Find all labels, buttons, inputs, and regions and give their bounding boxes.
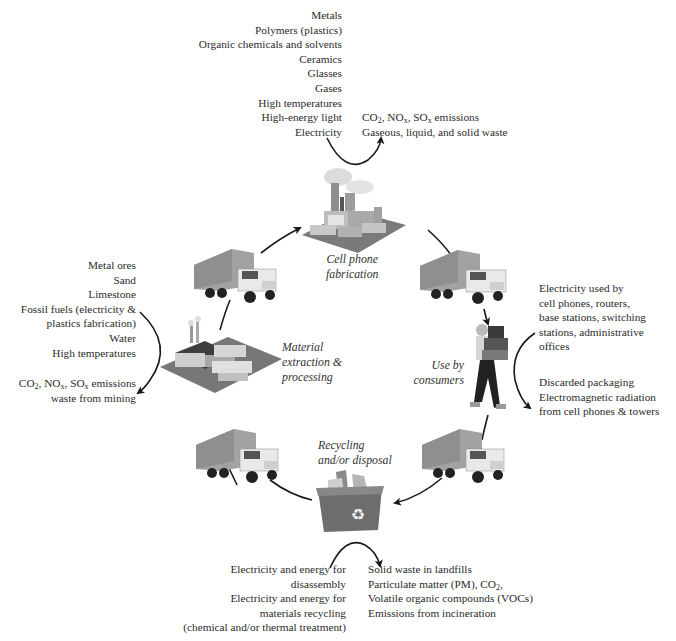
recycling-pm-co2-line: Particulate matter (PM), CO2, xyxy=(368,577,533,592)
truck-icon-extraction-to-fabrication xyxy=(192,245,282,307)
recycling-bin-icon: ♻ xyxy=(312,470,388,534)
extraction-io-arrow xyxy=(138,312,160,393)
fabrication-inputs-list: Metals Polymers (plastics) Organic chemi… xyxy=(150,8,342,139)
stage-label-recycling: Recycling and/or disposal xyxy=(318,438,392,468)
extraction-outputs-list: CO2, NOx, SOx emissions waste from minin… xyxy=(0,376,136,405)
svg-text:♻: ♻ xyxy=(351,505,365,524)
extraction-emissions-line: CO2, NOx, SOx emissions xyxy=(0,376,136,391)
processing-plant-icon xyxy=(160,315,285,395)
stage-label-fabrication: Cell phone fabrication xyxy=(326,252,378,282)
truck-icon-fabrication-to-consumer xyxy=(418,246,513,308)
recycling-inputs-list: Electricity and energy for disassembly E… xyxy=(150,562,346,635)
person-carrying-boxes-icon xyxy=(470,322,520,412)
fabrication-io-arrow xyxy=(327,138,381,164)
stage-label-use: Use by consumers xyxy=(412,358,464,388)
use-inputs-list: Electricity used by cell phones, routers… xyxy=(539,281,646,354)
fabrication-emissions-line: CO2, NOx, SOx emissions xyxy=(362,110,508,125)
extraction-inputs-list: Metal ores Sand Limestone Fossil fuels (… xyxy=(0,258,136,360)
truck-icon-consumer-to-disposal xyxy=(420,425,510,487)
truck-icon-disposal-to-extraction xyxy=(194,425,284,487)
use-outputs-list: Discarded packaging Electromagnetic radi… xyxy=(539,375,659,419)
recycling-outputs-list: Solid waste in landfills Particulate mat… xyxy=(368,562,533,620)
factory-icon xyxy=(298,165,410,255)
fabrication-outputs-list: CO2, NOx, SOx emissions Gaseous, liquid,… xyxy=(362,110,508,139)
stage-label-extraction: Material extraction & processing xyxy=(282,340,342,385)
